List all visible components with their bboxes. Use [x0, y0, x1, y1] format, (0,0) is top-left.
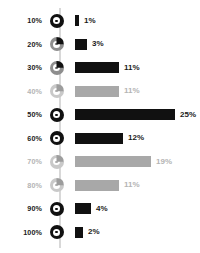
bar-cell: 2% — [66, 227, 200, 238]
bar-cell: 19% — [66, 156, 200, 167]
row-axis-label: 10% — [0, 17, 47, 24]
donut-marker-icon — [50, 225, 64, 239]
bar-cell: 25% — [66, 109, 200, 120]
value-bar — [75, 203, 91, 214]
donut-center-dot — [55, 208, 57, 210]
value-label: 4% — [96, 205, 108, 213]
donut-marker-icon — [50, 61, 64, 75]
bar-cell: 11% — [66, 86, 200, 97]
row-axis-label: 40% — [0, 88, 47, 95]
value-label: 2% — [88, 228, 100, 236]
donut-center-dot — [55, 20, 57, 22]
donut-hole — [53, 135, 60, 142]
value-label: 19% — [156, 158, 172, 166]
row-axis-label: 60% — [0, 135, 47, 142]
bar-cell: 1% — [66, 15, 200, 26]
bar-chart: 10%1%20%3%30%11%40%11%50%25%60%12%70%19%… — [0, 0, 200, 253]
donut-hole — [53, 111, 60, 118]
chart-row: 20%3% — [0, 33, 200, 57]
donut-marker-icon — [50, 37, 64, 51]
milestone-marker-cell — [47, 14, 66, 28]
value-label: 25% — [180, 111, 196, 119]
row-axis-label: 90% — [0, 205, 47, 212]
value-bar — [75, 109, 175, 120]
value-bar — [75, 227, 83, 238]
value-label: 11% — [124, 87, 140, 95]
chart-row: 30%11% — [0, 56, 200, 80]
value-bar — [75, 86, 119, 97]
row-axis-label: 100% — [0, 229, 47, 236]
chart-row: 10%1% — [0, 9, 200, 33]
milestone-marker-cell — [47, 61, 66, 75]
chart-row: 60%12% — [0, 127, 200, 151]
row-axis-label: 50% — [0, 111, 47, 118]
bar-cell: 11% — [66, 62, 200, 73]
donut-marker-icon — [50, 178, 64, 192]
milestone-marker-cell — [47, 202, 66, 216]
value-label: 3% — [92, 40, 104, 48]
donut-marker-icon — [50, 108, 64, 122]
value-bar — [75, 180, 119, 191]
donut-center-dot — [55, 231, 57, 233]
value-label: 11% — [124, 64, 140, 72]
row-axis-label: 70% — [0, 158, 47, 165]
bar-cell: 12% — [66, 133, 200, 144]
donut-marker-icon — [50, 14, 64, 28]
donut-marker-icon — [50, 131, 64, 145]
milestone-marker-cell — [47, 155, 66, 169]
donut-center-dot — [55, 137, 57, 139]
chart-rows: 10%1%20%3%30%11%40%11%50%25%60%12%70%19%… — [0, 0, 200, 244]
value-label: 12% — [128, 134, 144, 142]
value-label: 11% — [124, 181, 140, 189]
chart-row: 50%25% — [0, 103, 200, 127]
value-bar — [75, 156, 151, 167]
row-axis-label: 30% — [0, 64, 47, 71]
milestone-marker-cell — [47, 84, 66, 98]
chart-row: 90%4% — [0, 197, 200, 221]
bar-cell: 11% — [66, 180, 200, 191]
milestone-marker-cell — [47, 225, 66, 239]
value-bar — [75, 133, 123, 144]
chart-row: 100%2% — [0, 221, 200, 245]
milestone-marker-cell — [47, 131, 66, 145]
value-bar — [75, 15, 79, 26]
donut-hole — [53, 205, 60, 212]
value-bar — [75, 62, 119, 73]
milestone-marker-cell — [47, 178, 66, 192]
bar-cell: 4% — [66, 203, 200, 214]
chart-row: 70%19% — [0, 150, 200, 174]
donut-marker-icon — [50, 202, 64, 216]
donut-marker-icon — [50, 84, 64, 98]
chart-row: 80%11% — [0, 174, 200, 198]
donut-hole — [53, 17, 60, 24]
row-axis-label: 80% — [0, 182, 47, 189]
value-bar — [75, 39, 87, 50]
value-label: 1% — [84, 17, 96, 25]
milestone-marker-cell — [47, 37, 66, 51]
donut-hole — [53, 229, 60, 236]
chart-row: 40%11% — [0, 80, 200, 104]
donut-marker-icon — [50, 155, 64, 169]
bar-cell: 3% — [66, 39, 200, 50]
milestone-marker-cell — [47, 108, 66, 122]
donut-center-dot — [55, 114, 57, 116]
row-axis-label: 20% — [0, 41, 47, 48]
